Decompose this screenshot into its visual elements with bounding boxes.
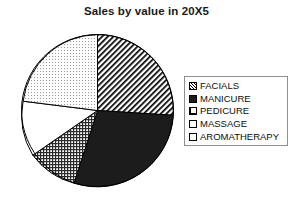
pie-slice-facials[interactable]: [98, 35, 174, 116]
chart-legend: FACIALS MANICURE PEDICURE MASSAGE AROMAT…: [184, 76, 288, 146]
pie-slice-aromatherapy[interactable]: [23, 35, 97, 111]
pie-slices: [22, 35, 174, 187]
legend-label-facials: FACIALS: [200, 81, 239, 91]
legend-label-manicure: MANICURE: [200, 94, 251, 104]
pie-plot-area: [10, 20, 185, 198]
diagonal-hatch-swatch-icon: [189, 82, 197, 90]
legend-label-aromatherapy: AROMATHERAPY: [200, 132, 279, 142]
legend-item-manicure[interactable]: MANICURE: [189, 93, 285, 106]
legend-item-facials[interactable]: FACIALS: [189, 80, 285, 93]
legend-label-pedicure: PEDICURE: [200, 106, 249, 116]
chart-title: Sales by value in 20X5: [0, 5, 293, 17]
pie-svg: [10, 20, 185, 198]
white-swatch-icon: [189, 120, 197, 128]
legend-item-aromatherapy[interactable]: AROMATHERAPY: [189, 130, 285, 143]
solid-dark-swatch-icon: [189, 95, 197, 103]
legend-item-pedicure[interactable]: PEDICURE: [189, 105, 285, 118]
cross-hatch-swatch-icon: [189, 107, 197, 115]
legend-label-massage: MASSAGE: [200, 119, 247, 129]
legend-item-massage[interactable]: MASSAGE: [189, 118, 285, 131]
pie-chart-figure: Sales by value in 20X5: [0, 0, 293, 210]
light-dotted-swatch-icon: [189, 133, 197, 141]
